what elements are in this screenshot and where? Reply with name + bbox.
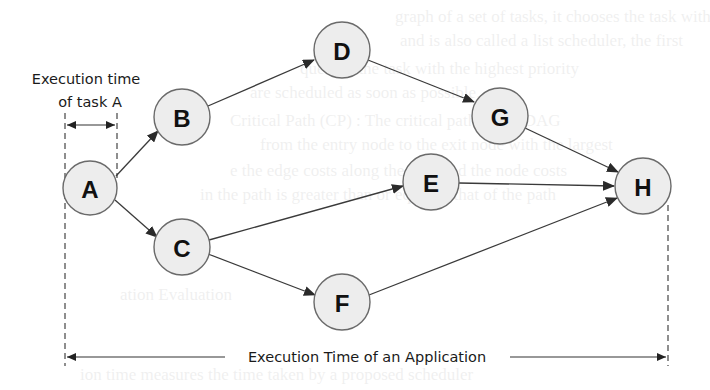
edge-a-b [116,131,158,176]
svg-text:graph of a set of tasks, it ch: graph of a set of tasks, it chooses the … [395,7,710,26]
node-c: C [154,219,210,275]
edge-a-c [115,200,157,237]
node-e: E [403,154,459,210]
edge-f-h [369,198,617,295]
svg-text:are scheduled as soon as possi: are scheduled as soon as possible. [250,83,480,102]
node-e-label: E [423,170,439,197]
node-d: D [314,22,370,78]
svg-text:ion time measures the time tak: ion time measures the time taken by a pr… [80,365,474,384]
svg-text:e the edge costs along the pat: e the edge costs along the path and the … [230,161,567,180]
task-a-time-label-line2: of task A [58,94,122,110]
node-h-label: H [634,174,651,201]
task-a-time-label-line1: Execution time [32,71,141,87]
node-f-label: F [335,290,350,317]
node-a: A [63,161,117,215]
svg-text:and is also called a list sche: and is also called a list scheduler, the… [400,31,683,50]
node-f: F [314,274,370,330]
background-bleed-through: graph of a set of tasks, it chooses the … [80,7,710,384]
app-time-label: Execution Time of an Application [248,349,486,365]
node-a-label: A [81,176,98,203]
node-g: G [472,88,528,144]
node-g-label: G [491,104,510,131]
svg-text:in the path is greater than or: in the path is greater than or equal to … [200,185,556,204]
node-c-label: C [173,235,190,262]
node-b-label: B [173,105,190,132]
task-graph-diagram: graph of a set of tasks, it chooses the … [0,0,710,390]
node-h: H [615,158,671,214]
svg-text:ation Evaluation: ation Evaluation [120,285,232,304]
node-b: B [154,89,210,145]
node-d-label: D [333,38,350,65]
